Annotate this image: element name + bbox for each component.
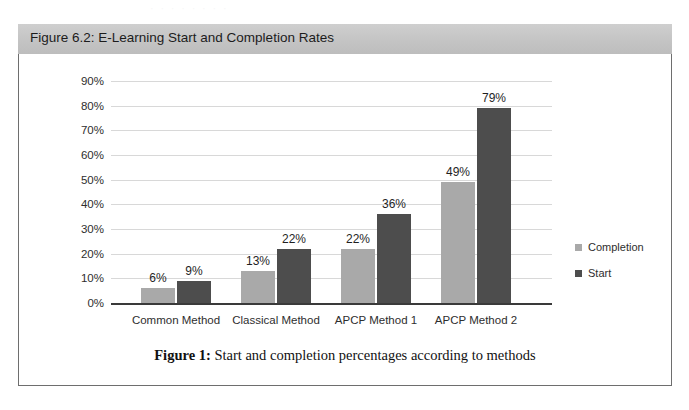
legend-label-start: Start (588, 267, 611, 279)
bar-value-label: 6% (149, 271, 166, 285)
bar-completion-classical-method[interactable]: 13% (241, 271, 275, 303)
ytick-label-60: 60% (81, 149, 104, 161)
page-bleed-through: · · · · · · · · (150, 2, 550, 16)
legend-label-completion: Completion (588, 241, 644, 253)
bar-value-label: 79% (482, 91, 506, 105)
ytick-label-40: 40% (81, 198, 104, 210)
bar-start-common-method[interactable]: 9% (177, 281, 211, 303)
category-label-apcp-method-2: APCP Method 2 (435, 314, 517, 326)
bar-completion-apcp-method-2[interactable]: 49% (441, 182, 475, 303)
legend-swatch-icon (575, 244, 582, 251)
legend-item-completion[interactable]: Completion (575, 241, 671, 253)
figure-block: Figure 6.2: E-Learning Start and Complet… (18, 24, 672, 386)
legend-swatch-icon (575, 270, 582, 277)
chart-legend: Completion Start (575, 241, 671, 293)
bar-group-apcp-method-1: 22% 36% APCP Method 1 (333, 81, 419, 303)
ytick-label-80: 80% (81, 100, 104, 112)
x-axis-line (111, 303, 552, 305)
figure-header-title: Figure 6.2: E-Learning Start and Complet… (30, 30, 334, 45)
bar-start-apcp-method-1[interactable]: 36% (377, 214, 411, 303)
figure-caption: Figure 1: Start and completion percentag… (19, 347, 671, 364)
legend-item-start[interactable]: Start (575, 267, 671, 279)
bar-completion-common-method[interactable]: 6% (141, 288, 175, 303)
category-label-apcp-method-1: APCP Method 1 (335, 314, 417, 326)
bar-start-apcp-method-2[interactable]: 79% (477, 108, 511, 303)
bar-group-classical-method: 13% 22% Classical Method (233, 81, 319, 303)
bar-value-label: 13% (246, 254, 270, 268)
ytick-label-70: 70% (81, 124, 104, 136)
bar-value-label: 36% (382, 197, 406, 211)
bar-value-label: 9% (185, 264, 202, 278)
figure-caption-prefix: Figure 1: (154, 347, 211, 363)
plot-area: 90% 80% 70% 60% 50% 40% 30% 20% 10% 0% 6… (111, 81, 552, 303)
bar-group-apcp-method-2: 49% 79% APCP Method 2 (433, 81, 519, 303)
ytick-label-50: 50% (81, 174, 104, 186)
bar-completion-apcp-method-1[interactable]: 22% (341, 249, 375, 303)
ytick-label-0: 0% (87, 297, 104, 309)
figure-body: 90% 80% 70% 60% 50% 40% 30% 20% 10% 0% 6… (18, 54, 672, 386)
figure-caption-text: Start and completion percentages accordi… (211, 347, 536, 363)
ytick-label-30: 30% (81, 223, 104, 235)
bar-value-label: 22% (346, 232, 370, 246)
bar-chart: 90% 80% 70% 60% 50% 40% 30% 20% 10% 0% 6… (19, 54, 671, 344)
bar-start-classical-method[interactable]: 22% (277, 249, 311, 303)
category-label-classical-method: Classical Method (232, 314, 320, 326)
bar-value-label: 49% (446, 165, 470, 179)
ytick-label-10: 10% (81, 272, 104, 284)
category-label-common-method: Common Method (132, 314, 220, 326)
figure-header-bar: Figure 6.2: E-Learning Start and Complet… (18, 24, 672, 54)
ytick-label-20: 20% (81, 248, 104, 260)
ytick-label-90: 90% (81, 75, 104, 87)
bar-value-label: 22% (282, 232, 306, 246)
bar-group-common-method: 6% 9% Common Method (133, 81, 219, 303)
